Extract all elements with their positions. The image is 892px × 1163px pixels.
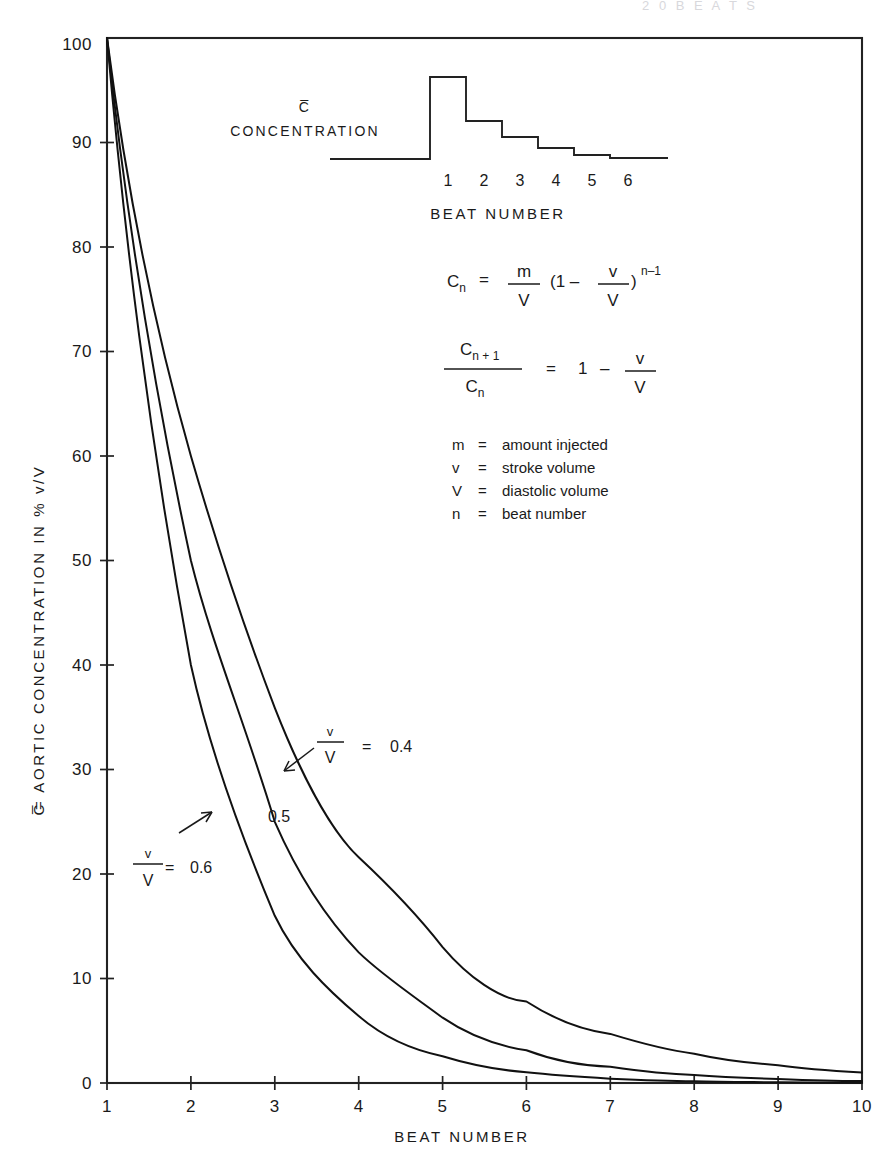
annotation-ratio-0-4: v V = 0.4 — [284, 724, 412, 771]
svg-text:6: 6 — [521, 1097, 531, 1116]
eq2-den-sub: n — [478, 386, 485, 400]
annotation-ratio-0-6: v V = 0.6 — [133, 812, 212, 889]
ann04-equals: = — [362, 738, 371, 755]
inset-x-title: BEAT NUMBER — [430, 205, 566, 222]
svg-text:60: 60 — [72, 447, 92, 466]
y-tick-label-20: 20 — [72, 865, 92, 884]
inset-concentration-label: CONCENTRATION — [230, 123, 380, 139]
svg-text:8: 8 — [689, 1097, 699, 1116]
eq2-num-base: C — [460, 340, 472, 359]
svg-text:=: = — [478, 505, 487, 522]
svg-text:4: 4 — [552, 172, 561, 189]
svg-text:10: 10 — [72, 969, 92, 988]
ann04-value: 0.4 — [390, 738, 412, 755]
eq1-frac1-num: m — [517, 262, 531, 281]
svg-text:40: 40 — [72, 656, 92, 675]
svg-text:100: 100 — [62, 35, 92, 54]
x-axis-title: BEAT NUMBER — [394, 1128, 530, 1145]
inset-cbar-label: C̅ — [299, 99, 311, 115]
svg-text:diastolic volume: diastolic volume — [502, 482, 609, 499]
y-tick-label-40: 40 — [72, 656, 92, 675]
inset-staircase-diagram: C̅ CONCENTRATION 1 2 3 4 5 6 BEAT NUMBER — [230, 77, 668, 222]
annotation-ratio-0-5: 0.5 — [268, 808, 290, 825]
y-tick-label-70: 70 — [72, 342, 92, 361]
equation-ratio: Cn + 1 Cn = 1 – v V — [444, 340, 656, 400]
svg-text:Cn: Cn — [466, 377, 485, 400]
ann06-arrow — [179, 812, 212, 833]
svg-text:3: 3 — [270, 1097, 280, 1116]
eq1-frac2-num: v — [609, 262, 618, 281]
svg-text:=: = — [478, 436, 487, 453]
eq2-equals: = — [546, 359, 556, 378]
svg-text:7: 7 — [605, 1097, 615, 1116]
eq2-minus: – — [600, 359, 610, 378]
plot-frame — [107, 38, 862, 1083]
y-tick-label-10: 10 — [72, 969, 92, 988]
curve-ratio-0-4 — [107, 38, 862, 1073]
x-tick-label-10: 10 — [852, 1097, 872, 1116]
svg-text:2: 2 — [480, 172, 489, 189]
x-tick-label-9: 9 — [773, 1097, 783, 1116]
y-axis-title: C̅= AORTIC CONCENTRATION IN % v/V — [30, 465, 47, 816]
x-tick-label-1: 1 — [102, 1097, 112, 1116]
eq1-sub: n — [459, 281, 466, 295]
svg-text:1: 1 — [444, 172, 453, 189]
y-tick-label-90: 90 — [72, 133, 92, 152]
staircase-trace — [330, 77, 668, 159]
svg-text:V: V — [452, 482, 462, 499]
eq1-close-paren: ) — [631, 272, 637, 291]
y-tick-label-50: 50 — [72, 551, 92, 570]
curve-ratio-0-5 — [107, 38, 862, 1081]
definition-row-V: V = diastolic volume — [452, 482, 609, 499]
definition-row-n: n = beat number — [452, 505, 586, 522]
curve-ratio-0-6 — [107, 38, 862, 1083]
svg-text:Cn + 1: Cn + 1 — [460, 340, 500, 363]
ann06-num: v — [145, 846, 152, 861]
svg-text:90: 90 — [72, 133, 92, 152]
eq1-frac1-den: V — [518, 291, 530, 310]
svg-text:beat number: beat number — [502, 505, 586, 522]
svg-text:2: 2 — [186, 1097, 196, 1116]
svg-text:m: m — [452, 436, 465, 453]
ann06-value: 0.6 — [190, 859, 212, 876]
inset-beat-labels: 1 2 3 4 5 6 — [444, 172, 633, 189]
svg-text:3: 3 — [516, 172, 525, 189]
svg-text:Cn: Cn — [447, 272, 466, 295]
definition-row-v: v = stroke volume — [452, 459, 595, 476]
y-tick-label-80: 80 — [72, 238, 92, 257]
x-tick-label-8: 8 — [689, 1097, 699, 1116]
ann06-den: V — [143, 872, 154, 889]
y-tick-label-0: 0 — [82, 1074, 92, 1093]
eq2-frac-den: V — [634, 378, 646, 397]
eq2-one: 1 — [578, 359, 587, 378]
svg-text:4: 4 — [354, 1097, 364, 1116]
eq1-equals: = — [479, 270, 489, 289]
ann04-arrow — [284, 748, 314, 771]
eq1-frac2-den: V — [607, 291, 619, 310]
figure-canvas: 2 0 B E A T S 0 10 20 30 40 50 60 70 80 … — [0, 0, 892, 1163]
x-tick-label-4: 4 — [354, 1097, 364, 1116]
definition-row-m: m = amount injected — [452, 436, 608, 453]
ann05-value: 0.5 — [268, 808, 290, 825]
x-tick-label-5: 5 — [438, 1097, 448, 1116]
eq2-num-sub: n + 1 — [472, 349, 499, 363]
y-tick-label-100: 100 — [62, 35, 92, 54]
svg-text:1: 1 — [102, 1097, 112, 1116]
eq1-lhs: C — [447, 272, 459, 291]
equation-cn: Cn = m V (1 – v V ) n–1 — [447, 262, 661, 310]
svg-text:30: 30 — [72, 760, 92, 779]
ann06-equals: = — [165, 859, 174, 876]
svg-text:6: 6 — [624, 172, 633, 189]
x-tick-label-6: 6 — [521, 1097, 531, 1116]
x-tick-label-2: 2 — [186, 1097, 196, 1116]
svg-text:9: 9 — [773, 1097, 783, 1116]
svg-text:n: n — [452, 505, 460, 522]
ann04-den: V — [325, 749, 336, 766]
top-cutoff-text: 2 0 B E A T S — [642, 0, 758, 13]
y-tick-label-60: 60 — [72, 447, 92, 466]
x-tick-label-7: 7 — [605, 1097, 615, 1116]
svg-text:20: 20 — [72, 865, 92, 884]
ann04-num: v — [327, 724, 334, 739]
svg-text:10: 10 — [852, 1097, 872, 1116]
svg-text:=: = — [478, 482, 487, 499]
